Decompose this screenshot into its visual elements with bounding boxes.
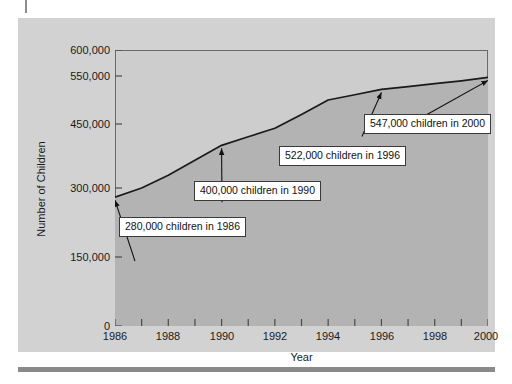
annotation-callout-1996: 522,000 children in 1996: [279, 146, 406, 166]
annotation-callout-1986: 280,000 children in 1986: [119, 217, 246, 237]
x-axis-title: Year: [115, 351, 488, 363]
x-tick-label-1994: 1994: [316, 330, 340, 342]
footer-rule: [18, 367, 495, 372]
y-axis-tick-labels: 600,000 550,000 450,000 300,000 150,000 …: [38, 50, 110, 326]
y-tick-label-600000: 600,000: [70, 44, 110, 56]
y-tick-label-150000: 150,000: [70, 251, 110, 263]
x-axis-tick-labels: 1986 1988 1990 1992 1994 1996 1998 2000: [115, 330, 488, 346]
x-tick-label-1992: 1992: [263, 330, 287, 342]
y-tick-label-450000: 450,000: [70, 118, 110, 130]
x-tick-label-1988: 1988: [156, 330, 180, 342]
annotation-callout-2000: 547,000 children in 2000: [364, 114, 491, 134]
x-tick-label-1996: 1996: [370, 330, 394, 342]
y-tick-label-550000: 550,000: [70, 70, 110, 82]
x-tick-label-1986: 1986: [103, 330, 127, 342]
x-tick-label-1998: 1998: [423, 330, 447, 342]
y-tick-label-300000: 300,000: [70, 182, 110, 194]
page-crop-mark: [25, 0, 27, 13]
x-tick-label-2000: 2000: [474, 330, 498, 342]
x-tick-label-1990: 1990: [210, 330, 234, 342]
chart-figure-panel: Number of Children 600,000 550,000 450,0…: [18, 18, 495, 352]
annotation-callout-1990: 400,000 children in 1990: [194, 181, 321, 201]
